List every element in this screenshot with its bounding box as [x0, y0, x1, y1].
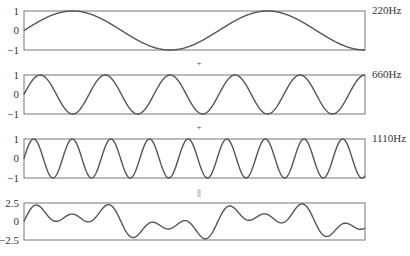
sine-wave-1110hz	[24, 139, 365, 178]
ytick-bottom: −1	[7, 108, 19, 120]
sine-wave-220hz	[24, 11, 365, 50]
ytick-bottom: −1	[7, 172, 19, 184]
ytick-zero: 0	[14, 88, 20, 100]
equals-operator: ||	[197, 187, 201, 197]
panel-1110hz: 1 0 −1 1110Hz	[7, 132, 406, 184]
ytick-top: 2.5	[5, 197, 19, 209]
panel-220hz: 1 0 −1 220Hz	[7, 4, 401, 56]
ytick-top: 1	[14, 5, 20, 17]
panel-sum: 2.5 0 −2.5	[0, 197, 365, 246]
waveform-figure: 1 0 −1 220Hz + 1 0 −1 660Hz + 1 0 −1 111…	[0, 0, 410, 256]
plot-frame	[24, 203, 365, 240]
frequency-label: 220Hz	[372, 4, 401, 16]
frequency-label: 1110Hz	[372, 132, 406, 144]
ytick-bottom: −1	[7, 44, 19, 56]
ytick-top: 1	[14, 133, 20, 145]
ytick-bottom: −2.5	[0, 234, 19, 246]
ytick-zero: 0	[14, 215, 20, 227]
ytick-top: 1	[14, 69, 20, 81]
ytick-zero: 0	[14, 24, 20, 36]
sine-wave-660hz	[24, 75, 365, 114]
sum-wave	[24, 204, 365, 239]
plus-operator: +	[196, 122, 201, 132]
panel-660hz: 1 0 −1 660Hz	[7, 68, 401, 120]
plus-operator: +	[196, 58, 201, 68]
frequency-label: 660Hz	[372, 68, 401, 80]
ytick-zero: 0	[14, 152, 20, 164]
